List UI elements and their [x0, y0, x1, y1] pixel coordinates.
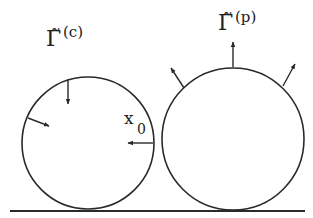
- diagram-canvas: Γ̃ (c) Γ̃ (p) x 0: [0, 0, 313, 218]
- outward-arrow-right-icon: [283, 64, 295, 86]
- label-x0: x: [124, 108, 134, 128]
- label-gamma-c-superscript: (c): [63, 23, 83, 41]
- label-x0-subscript: 0: [137, 121, 146, 137]
- outward-arrow-left-icon: [171, 68, 184, 88]
- label-gamma-p: Γ̃: [218, 10, 233, 35]
- label-gamma-c: Γ̃: [46, 26, 61, 51]
- right-circle: [162, 68, 304, 210]
- inward-arrow-left-icon: [28, 118, 49, 126]
- label-gamma-p-superscript: (p): [235, 8, 256, 26]
